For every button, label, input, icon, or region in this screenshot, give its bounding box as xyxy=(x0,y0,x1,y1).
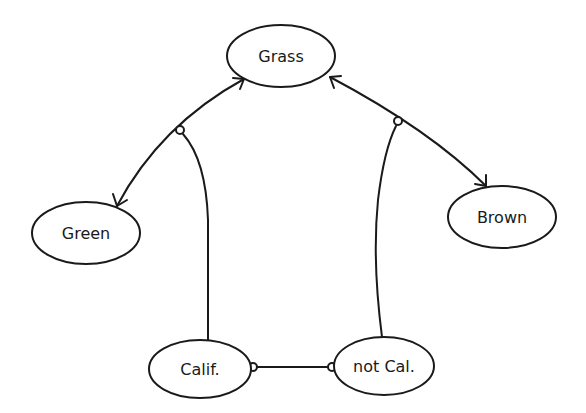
node-label: Calif. xyxy=(180,360,219,379)
edge-grass-brown xyxy=(330,77,486,186)
junction-circle-icon xyxy=(176,126,184,134)
edge-grass-green xyxy=(117,79,244,206)
node-label: not Cal. xyxy=(353,357,415,376)
node-grass: Grass xyxy=(227,25,335,87)
edge-notcal-to-grass-brown xyxy=(376,126,396,337)
edge-calif-to-grass-green xyxy=(183,134,208,340)
node-label: Brown xyxy=(477,208,527,227)
node-not-cal: not Cal. xyxy=(334,337,434,395)
node-brown: Brown xyxy=(448,186,556,248)
junction-circle-icon xyxy=(394,117,402,125)
node-label: Green xyxy=(62,224,110,243)
node-calif: Calif. xyxy=(149,340,251,398)
node-green: Green xyxy=(32,202,140,264)
causal-diagram: Grass Green Brown Calif. not Cal. xyxy=(0,0,586,413)
node-label: Grass xyxy=(258,47,303,66)
